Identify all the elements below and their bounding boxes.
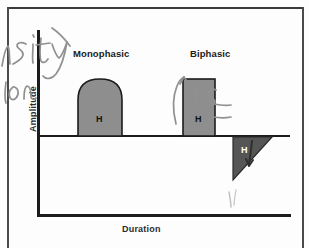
ink-stroke-faint-tick2 bbox=[234, 190, 236, 205]
biphasic-negative-triangle-shape bbox=[233, 137, 272, 180]
ink-stroke-o bbox=[9, 87, 18, 99]
page-border-top bbox=[8, 7, 304, 9]
ink-stroke-slash bbox=[52, 28, 70, 46]
waveform-shapes bbox=[0, 0, 309, 248]
page-border-left bbox=[7, 7, 9, 248]
ink-stroke-down-arrow-head bbox=[246, 159, 253, 166]
ink-stroke-t2-cross bbox=[191, 90, 205, 92]
figure-canvas: Amplitude Duration Monophasic Biphasic H… bbox=[0, 0, 309, 248]
ink-stroke-down-arrow-shaft bbox=[249, 141, 252, 165]
x-axis bbox=[37, 214, 291, 217]
amplitude-label-monophasic: H bbox=[96, 114, 103, 124]
page-border-right bbox=[302, 7, 304, 248]
zero-baseline bbox=[40, 135, 290, 137]
ink-stroke-faint-tick bbox=[229, 192, 231, 207]
biphasic-positive-rect-shape bbox=[183, 79, 215, 136]
ink-stroke-y-bowl bbox=[52, 42, 67, 58]
handwritten-annotations bbox=[0, 0, 309, 248]
amplitude-label-biphasic-positive: H bbox=[195, 114, 202, 124]
ink-stroke-tail-right bbox=[213, 104, 231, 105]
ink-stroke-t bbox=[40, 38, 48, 62]
x-axis-label: Duration bbox=[122, 224, 161, 234]
ink-stroke-i-dot bbox=[33, 35, 34, 37]
ink-stroke-i2 bbox=[5, 82, 6, 103]
ink-stroke-arrow-shaft bbox=[174, 77, 185, 124]
ink-stroke-t2 bbox=[195, 86, 206, 103]
ink-stroke-s bbox=[13, 43, 26, 64]
ink-stroke-tail-right2 bbox=[213, 117, 231, 118]
amplitude-label-biphasic-negative: H bbox=[241, 145, 248, 155]
caption-monophasic: Monophasic bbox=[73, 48, 129, 59]
y-axis-label: Amplitude bbox=[28, 69, 38, 149]
monophasic-dome-shape bbox=[78, 79, 122, 136]
caption-biphasic: Biphasic bbox=[190, 48, 230, 59]
ink-stroke-y-tail bbox=[43, 42, 67, 78]
ink-stroke-s2 bbox=[207, 89, 216, 105]
ink-stroke-arrow-head bbox=[180, 77, 188, 84]
